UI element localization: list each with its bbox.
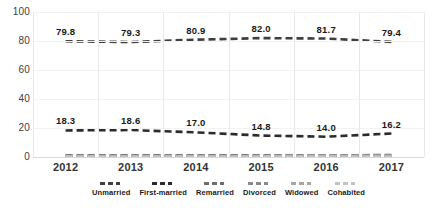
legend-label: Remarried	[196, 188, 234, 197]
data-point-label: 79.4	[368, 27, 414, 38]
legend-label: Cohabited	[327, 188, 365, 197]
legend-item[interactable]: Widowed	[285, 180, 319, 197]
data-point-label: 14.8	[238, 121, 284, 132]
data-point-label: 16.2	[368, 119, 414, 130]
plot-area: 79.879.380.982.081.779.418.318.617.014.8…	[33, 12, 424, 157]
legend-dash-icon	[100, 180, 122, 187]
line-chart: 020406080100 79.879.380.982.081.779.418.…	[0, 0, 437, 211]
y-axis-tick-label: 60	[0, 65, 30, 75]
y-axis-tick-label: 80	[0, 36, 30, 46]
legend-dash-icon	[204, 180, 226, 187]
gridline-vertical	[424, 12, 425, 157]
legend-dash-icon	[248, 180, 270, 187]
legend-item[interactable]: Remarried	[196, 180, 234, 197]
gridline-vertical	[359, 12, 360, 157]
x-axis-tick-label: 2017	[361, 160, 421, 174]
data-point-label: 82.0	[238, 23, 284, 34]
y-axis-tick-label: 0	[0, 152, 30, 162]
x-axis-tick-label: 2016	[296, 160, 356, 174]
x-axis-tick-label: 2013	[101, 160, 161, 174]
gridline-vertical	[33, 12, 34, 157]
data-point-label: 17.0	[173, 117, 219, 128]
x-axis-tick-label: 2014	[166, 160, 226, 174]
gridline-vertical	[98, 12, 99, 157]
data-point-label: 14.0	[303, 122, 349, 133]
axis-line-zero	[33, 157, 424, 158]
data-point-label: 79.3	[108, 27, 154, 38]
x-axis-tick-label: 2012	[36, 160, 96, 174]
y-axis-tick-label: 100	[0, 7, 30, 17]
data-point-label: 81.7	[303, 24, 349, 35]
chart-legend: UnmarriedFirst-marriedRemarriedDivorcedW…	[33, 180, 424, 208]
legend-dash-icon	[291, 180, 313, 187]
gridline-vertical	[294, 12, 295, 157]
data-point-label: 80.9	[173, 25, 219, 36]
y-axis: 020406080100	[0, 12, 30, 157]
legend-item[interactable]: First-married	[139, 180, 187, 197]
data-point-label: 18.3	[43, 115, 89, 126]
data-point-label: 18.6	[108, 115, 154, 126]
legend-item[interactable]: Divorced	[243, 180, 276, 197]
data-point-label: 79.8	[43, 26, 89, 37]
legend-dash-icon	[335, 180, 357, 187]
x-axis: 201220132014201520162017	[33, 160, 424, 178]
legend-item[interactable]: Unmarried	[92, 180, 130, 197]
legend-label: Unmarried	[92, 188, 130, 197]
legend-dash-icon	[152, 180, 174, 187]
y-axis-tick-label: 40	[0, 94, 30, 104]
gridline-vertical	[163, 12, 164, 157]
gridline-vertical	[229, 12, 230, 157]
y-axis-tick-label: 20	[0, 123, 30, 133]
legend-label: Widowed	[285, 188, 319, 197]
legend-item[interactable]: Cohabited	[327, 180, 365, 197]
x-axis-tick-label: 2015	[231, 160, 291, 174]
legend-label: Divorced	[243, 188, 276, 197]
legend-label: First-married	[139, 188, 187, 197]
